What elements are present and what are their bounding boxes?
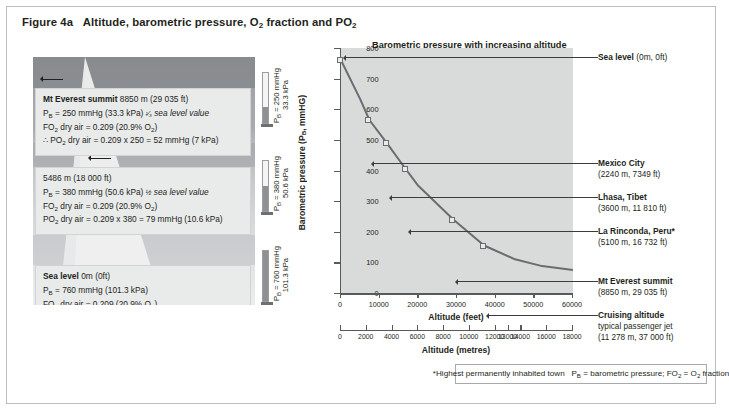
y-tick-label: 100 — [349, 258, 379, 267]
y-tick-mark — [334, 201, 340, 202]
metre-tick-label: 2000 — [358, 333, 373, 340]
x-tick-mark — [456, 293, 457, 298]
x-tick-mark — [340, 293, 341, 298]
everest-pb: PB = 250 mmHg (33.3 kPa) ¹⁄₃ sea level v… — [43, 108, 244, 121]
mid-pb: PB = 380 mmHg (50.6 kPa) ½ sea level val… — [43, 187, 244, 200]
metre-tick-mark — [520, 325, 521, 331]
info-box-everest: Mt Everest summit 8850 m (29 035 ft) PB … — [35, 88, 251, 156]
y-tick-label: 400 — [349, 166, 379, 175]
metre-tick-mark — [366, 325, 367, 331]
gauge-kpa-sea-level: 101.3 kPa — [281, 258, 290, 292]
leader-line — [409, 231, 598, 232]
metre-tick-mark — [495, 325, 496, 331]
metre-tick-label: 6000 — [410, 333, 425, 340]
everest-name: Mt Everest summit — [43, 94, 117, 104]
x-tick-mark — [495, 293, 496, 298]
mid-altitude: 5486 m (18 000 ft) — [43, 173, 111, 183]
leader-line — [456, 281, 598, 282]
x-tick-label: 20000 — [407, 300, 427, 309]
data-point-marker — [383, 140, 389, 146]
footnote-text: *Highest permanently inhabited town PB =… — [433, 369, 729, 379]
annotation-name: Lhasa, Tibet — [598, 192, 720, 203]
metre-tick-label: 10000 — [459, 333, 478, 340]
data-point-marker — [365, 117, 371, 123]
y-tick-label: 800 — [349, 44, 379, 53]
annotation-detail: (2240 m, 7349 ft) — [598, 169, 720, 180]
annotation-name: Mexico City — [598, 158, 720, 169]
everest-altitude: 8850 m (29 035 ft) — [120, 94, 188, 104]
everest-fo2: FO2 dry air = 0.209 (20.9% O2) — [43, 122, 244, 135]
annotation-5: Mt Everest summit(8850 m, 29 035 ft) — [598, 276, 720, 298]
annotation-name: Cruising altitude — [598, 310, 720, 321]
sealevel-fo2: FO2 dry air = 0.209 (20.9% O2) — [43, 299, 244, 305]
metre-tick-label: 8000 — [435, 333, 450, 340]
metre-tick-mark — [443, 325, 444, 331]
sealevel-pb: PB = 760 mmHg (101.3 kPa) — [43, 285, 244, 298]
mid-fo2: FO2 dry air = 0.209 (20.9% O2) — [43, 201, 244, 214]
annotation-name: La Rinconda, Peru* — [598, 226, 720, 237]
everest-po2: ∴ PO2 dry air = 0.209 x 250 = 52 mmHg (7… — [43, 135, 244, 148]
y-tick-mark — [334, 79, 340, 80]
info-box-5486m: 5486 m (18 000 ft) PB = 380 mmHg (50.6 k… — [35, 167, 251, 235]
chart-y-axis-label: Barometric pressure (PB, mmHG) — [297, 95, 307, 230]
y-tick-mark — [334, 140, 340, 141]
annotation-detail: typical passenger jet — [598, 321, 720, 332]
x-tick-label: 50000 — [523, 300, 543, 309]
chart-metres-axis-label: Altitude (metres) — [422, 345, 490, 355]
annotation-3: Lhasa, Tibet(3600 m, 11 810 ft) — [598, 192, 720, 214]
gauge-kpa-everest: 33.3 kPa — [281, 80, 290, 110]
mid-po2: PO2 dry air = 0.209 x 380 = 79 mmHg (10.… — [43, 214, 244, 227]
metre-tick-mark — [572, 325, 573, 331]
x-tick-mark — [533, 293, 534, 298]
x-tick-label: 30000 — [446, 300, 466, 309]
altitude-diagram-panel: Mt Everest summit 8850 m (29 035 ft) PB … — [33, 57, 255, 305]
leader-line — [372, 163, 598, 164]
y-tick-label: 600 — [349, 105, 379, 114]
arrow-mid-altitude — [89, 158, 111, 159]
gauge-kpa-5486m: 50.6 kPa — [281, 168, 290, 198]
annotation-4: La Rinconda, Peru*(5100 m, 16 732 ft) — [598, 226, 720, 248]
metre-tick-label: 18000 — [562, 333, 581, 340]
pressure-gauge-everest — [262, 72, 269, 124]
leader-line — [390, 197, 598, 198]
annotation-2: Mexico City(2240 m, 7349 ft) — [598, 158, 720, 180]
x-tick-label: 40000 — [485, 300, 505, 309]
pressure-gauge-sea-level — [262, 250, 269, 302]
metre-tick-label: 4000 — [384, 333, 399, 340]
metre-tick-mark — [508, 325, 509, 331]
annotation-detail: (3600 m, 11 810 ft) — [598, 203, 720, 214]
figure-label: Figure 4a — [22, 16, 73, 28]
y-tick-mark — [334, 262, 340, 263]
x-tick-mark — [572, 293, 573, 298]
sealevel-altitude: 0m (0ft) — [81, 271, 110, 281]
metre-tick-mark — [469, 325, 470, 331]
arrow-everest — [41, 79, 63, 80]
y-tick-mark — [334, 48, 340, 49]
y-tick-label: 300 — [349, 197, 379, 206]
data-point-marker — [449, 217, 455, 223]
y-tick-label: 200 — [349, 227, 379, 236]
data-point-marker — [402, 166, 408, 172]
leader-line — [487, 315, 598, 316]
metre-tick-mark — [546, 325, 547, 331]
metre-tick-label: 0 — [338, 333, 342, 340]
x-tick-mark — [417, 293, 418, 298]
data-point-marker — [480, 243, 486, 249]
annotation-detail: (5100 m, 16 732 ft) — [598, 237, 720, 248]
annotation-6: Cruising altitudetypical passenger jet(1… — [598, 310, 720, 343]
metre-tick-label: 14000 — [511, 333, 530, 340]
annotation-name: Sea level (0m, 0ft) — [598, 52, 720, 63]
leader-line — [344, 57, 598, 58]
chart-x-axis-label: Altitude (feet) — [428, 312, 483, 322]
info-box-sea-level: Sea level 0m (0ft) PB = 760 mmHg (101.3 … — [35, 265, 251, 305]
x-tick-mark — [379, 293, 380, 298]
annotation-detail-2: (11 278 m, 37 000 ft) — [598, 332, 720, 343]
figure-title: Figure 4a Altitude, barometric pressure,… — [22, 16, 357, 30]
x-tick-label: 10000 — [369, 300, 389, 309]
y-tick-mark — [334, 109, 340, 110]
annotation-detail: (8850 m, 29 035 ft) — [598, 287, 720, 298]
y-tick-mark — [334, 232, 340, 233]
y-tick-mark — [334, 171, 340, 172]
y-tick-label: 500 — [349, 135, 379, 144]
pressure-gauge-5486m — [262, 160, 269, 212]
